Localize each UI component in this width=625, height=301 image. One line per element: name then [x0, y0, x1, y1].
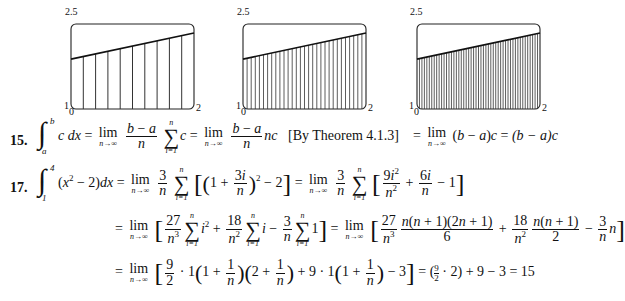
riemann-sum-plot: [55, 0, 245, 118]
result-15: (b − a)c: [512, 128, 558, 143]
riemann-sum-plot: [401, 0, 591, 118]
problem-number: 17.: [10, 180, 28, 196]
equation-17-line3: = limn→∞ [92 · 1(1 + 1n)(2 + 1n) + 9 · 1…: [115, 258, 535, 288]
y-top-label: 2.5: [65, 6, 78, 17]
integral-symbol: ∫ba: [38, 120, 54, 154]
theorem-note: [By Theorem 4.1.3]: [288, 128, 399, 143]
integral-symbol: ∫41: [38, 167, 54, 201]
y-top-label: 2.5: [237, 6, 250, 17]
y-top-label: 2.5: [410, 6, 423, 17]
graph-n30: 2.5 1 0 2: [227, 0, 417, 118]
problem-number: 15.: [10, 133, 28, 149]
x-left-label: 0: [69, 106, 74, 117]
graph-n50: 2.5 1 0 2: [401, 0, 591, 118]
x-right-label: 2: [196, 102, 201, 113]
equation-17-line2: = limn→∞ [27n3n∑i=1i2 + 18n2n∑i=1i − 3nn…: [115, 212, 625, 248]
equation-17-line1: ∫41(x2 − 2)dx = limn→∞ 3n n∑i=1 [(1 + 3i…: [38, 166, 464, 202]
riemann-sum-plot: [227, 0, 417, 118]
x-right-label: 2: [542, 102, 547, 113]
equation-15: ∫bac dx = limn→∞ b − an n∑i=1c = limn→∞ …: [38, 119, 558, 155]
x-left-label: 0: [241, 106, 246, 117]
graph-n10: 2.5 1 0 2: [55, 0, 245, 118]
result-17: 15: [521, 264, 535, 279]
x-right-label: 2: [368, 102, 373, 113]
x-left-label: 0: [414, 106, 419, 117]
